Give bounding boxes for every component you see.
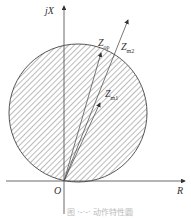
figure-caption: 图 ·-·-· 动作特性圆	[20, 206, 180, 217]
impedance-diagram	[0, 0, 191, 218]
zm2-label: Zm2	[121, 42, 134, 54]
jx-axis-label: jX	[45, 6, 54, 16]
zop-label: Zop	[98, 38, 110, 50]
r-axis-label: R	[177, 186, 183, 196]
origin-label: O	[54, 186, 61, 196]
zm1-label: Zm1	[105, 89, 118, 101]
operating-circle	[9, 44, 147, 182]
